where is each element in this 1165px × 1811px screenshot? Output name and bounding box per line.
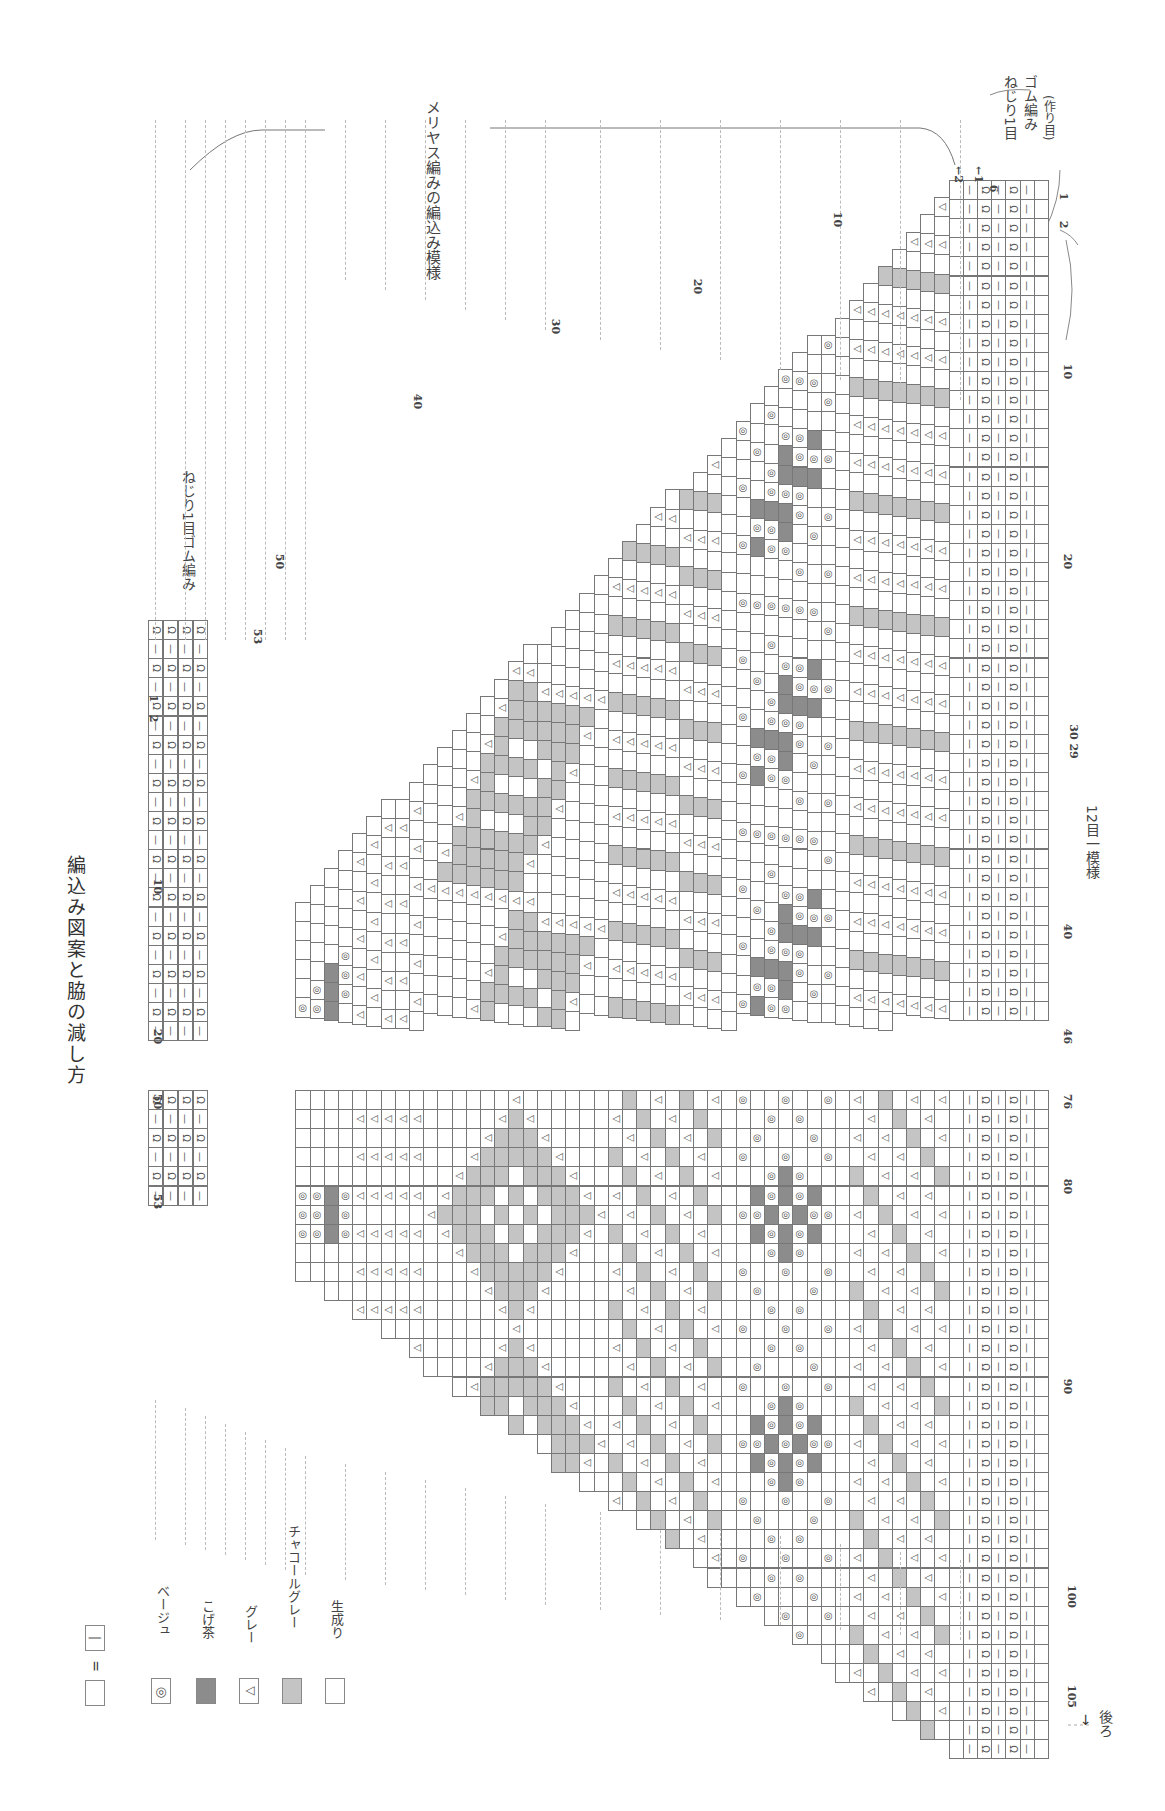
chart-cell: —	[991, 1415, 1006, 1435]
chart-cell: Ω	[977, 638, 992, 658]
chart-cell: △	[381, 894, 396, 914]
chart-cell	[381, 1243, 396, 1263]
chart-cell: △	[395, 1224, 410, 1244]
chart-cell	[906, 1587, 921, 1607]
chart-cell	[423, 898, 438, 918]
chart-cell	[466, 808, 481, 828]
chart-cell: △	[863, 684, 878, 704]
chart-cell: —	[1020, 1319, 1035, 1339]
chart-cell	[792, 619, 807, 639]
chart-cell	[835, 1357, 850, 1377]
chart-cell: △	[849, 797, 864, 817]
chart-cell	[608, 1281, 623, 1301]
chart-cell: ◎	[736, 879, 751, 899]
chart-cell	[863, 665, 878, 685]
chart-cell: Ω	[1005, 295, 1020, 315]
chart-cell	[792, 1128, 807, 1148]
chart-cell	[523, 1128, 538, 1148]
chart-cell	[835, 1166, 850, 1186]
triangle-icon: △	[909, 1402, 919, 1410]
chart-cell	[863, 1281, 878, 1301]
triangle-icon: △	[909, 658, 919, 666]
stitch-icon: Ω	[195, 1096, 205, 1104]
chart-cell	[466, 1186, 481, 1206]
chart-cell: Ω	[1005, 925, 1020, 945]
chart-cell: △	[423, 879, 438, 899]
chart-cell	[1034, 467, 1049, 487]
chart-cell: Ω	[148, 1002, 163, 1022]
chart-cell	[551, 856, 566, 876]
stitch-icon: —	[1022, 1324, 1032, 1334]
chart-cell	[650, 1147, 665, 1167]
chart-cell	[906, 747, 921, 767]
chart-cell	[437, 1166, 452, 1186]
chart-cell	[906, 671, 921, 691]
chart-cell	[750, 633, 765, 653]
chart-cell	[821, 1243, 836, 1263]
stitch-icon: —	[965, 682, 975, 692]
stitch-icon: —	[1022, 987, 1032, 997]
triangle-icon: △	[639, 816, 649, 824]
chart-cell: Ω	[148, 964, 163, 984]
chart-cell	[849, 892, 864, 912]
chart-cell: ◎	[736, 1434, 751, 1454]
chart-cell	[537, 1186, 552, 1206]
chart-cell	[807, 507, 822, 527]
chart-cell: Ω	[977, 1663, 992, 1683]
chart-cell: —	[991, 1281, 1006, 1301]
chart-cell: ◎	[792, 1568, 807, 1588]
chart-cell	[636, 753, 651, 773]
chart-cell	[579, 1147, 594, 1167]
chart-cell	[579, 1338, 594, 1358]
triangle-icon: △	[894, 1497, 904, 1505]
chart-cell	[679, 719, 694, 739]
chart-cell: △	[892, 917, 907, 937]
chart-cell: ◎	[792, 1415, 807, 1435]
chart-cell	[821, 870, 836, 890]
chart-cell	[949, 486, 964, 506]
chart-cell	[721, 1548, 736, 1568]
chart-cell	[409, 1128, 424, 1148]
stitch-icon: —	[994, 911, 1004, 921]
chart-cell: Ω	[977, 1377, 992, 1397]
chart-cell	[835, 318, 850, 338]
chart-cell	[579, 650, 594, 670]
chart-cell: —	[963, 1682, 978, 1702]
chart-cell	[707, 1009, 722, 1029]
chart-cell: —	[1020, 1644, 1035, 1664]
chart-cell: △	[906, 1548, 921, 1568]
stitch-icon: —	[1022, 1687, 1032, 1697]
chart-cell: —	[991, 543, 1006, 563]
chart-cell	[792, 1147, 807, 1167]
chart-cell	[494, 965, 509, 985]
chart-cell: —	[963, 180, 978, 200]
chart-cell	[650, 1338, 665, 1358]
chart-cell: △	[480, 734, 495, 754]
chart-cell	[906, 251, 921, 271]
chart-cell: Ω	[977, 715, 992, 735]
chart-cell	[707, 1357, 722, 1377]
chart-cell: Ω	[1005, 1548, 1020, 1568]
chart-cell	[636, 868, 651, 888]
stitch-icon: —	[994, 1382, 1004, 1392]
chart-cell	[466, 1166, 481, 1186]
stitch-icon: —	[1022, 1611, 1032, 1621]
chart-cell	[721, 1205, 736, 1225]
chart-cell: —	[1020, 1224, 1035, 1244]
triangle-icon: △	[369, 1230, 379, 1238]
chart-cell: —	[991, 1205, 1006, 1225]
triangle-icon: △	[610, 1344, 620, 1352]
triangle-icon: △	[909, 925, 919, 933]
chart-cell	[494, 793, 509, 813]
chart-cell	[352, 910, 367, 930]
chart-cell	[906, 1243, 921, 1263]
chart-cell	[508, 1377, 523, 1397]
chart-cell	[423, 784, 438, 804]
chart-cell	[366, 1166, 381, 1186]
double-circle-icon: ◎	[824, 1324, 833, 1334]
chart-cell: △	[622, 1205, 637, 1225]
chart-cell: —	[178, 983, 193, 1003]
triangle-icon: △	[525, 1344, 535, 1352]
chart-cell	[892, 745, 907, 765]
stitch-icon: Ω	[980, 301, 990, 309]
